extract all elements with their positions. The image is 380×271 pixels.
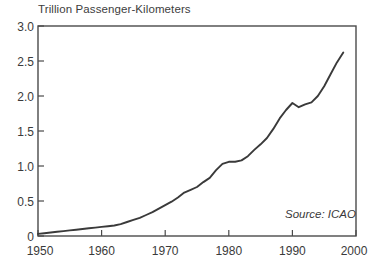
ytick-label-3-0: 3.0 — [17, 20, 34, 34]
ytick-label-2-5: 2.5 — [17, 55, 34, 69]
plot-frame — [38, 26, 356, 236]
xtick-label-1970: 1970 — [152, 244, 179, 258]
xtick-label-1950: 1950 — [27, 244, 54, 258]
ytick-label-1-5: 1.5 — [17, 125, 34, 139]
xtick-label-1980: 1980 — [215, 244, 242, 258]
ytick-label-2-0: 2.0 — [17, 90, 34, 104]
chart-figure: Trillion Passenger-Kilometers 3.0 2.5 2.… — [0, 0, 380, 271]
ytick-label-0-5: 0.5 — [17, 195, 34, 209]
source-annotation: Source: ICAO — [285, 208, 356, 220]
xtick-label-2000: 2000 — [341, 244, 368, 258]
ytick-label-0: 0 — [27, 230, 34, 244]
xtick-label-1990: 1990 — [279, 244, 306, 258]
ytick-label-1-0: 1.0 — [17, 160, 34, 174]
xtick-label-1960: 1960 — [88, 244, 115, 258]
plot-area: 3.0 2.5 2.0 1.5 1.0 0.5 0 1950 1960 1970… — [0, 0, 380, 271]
